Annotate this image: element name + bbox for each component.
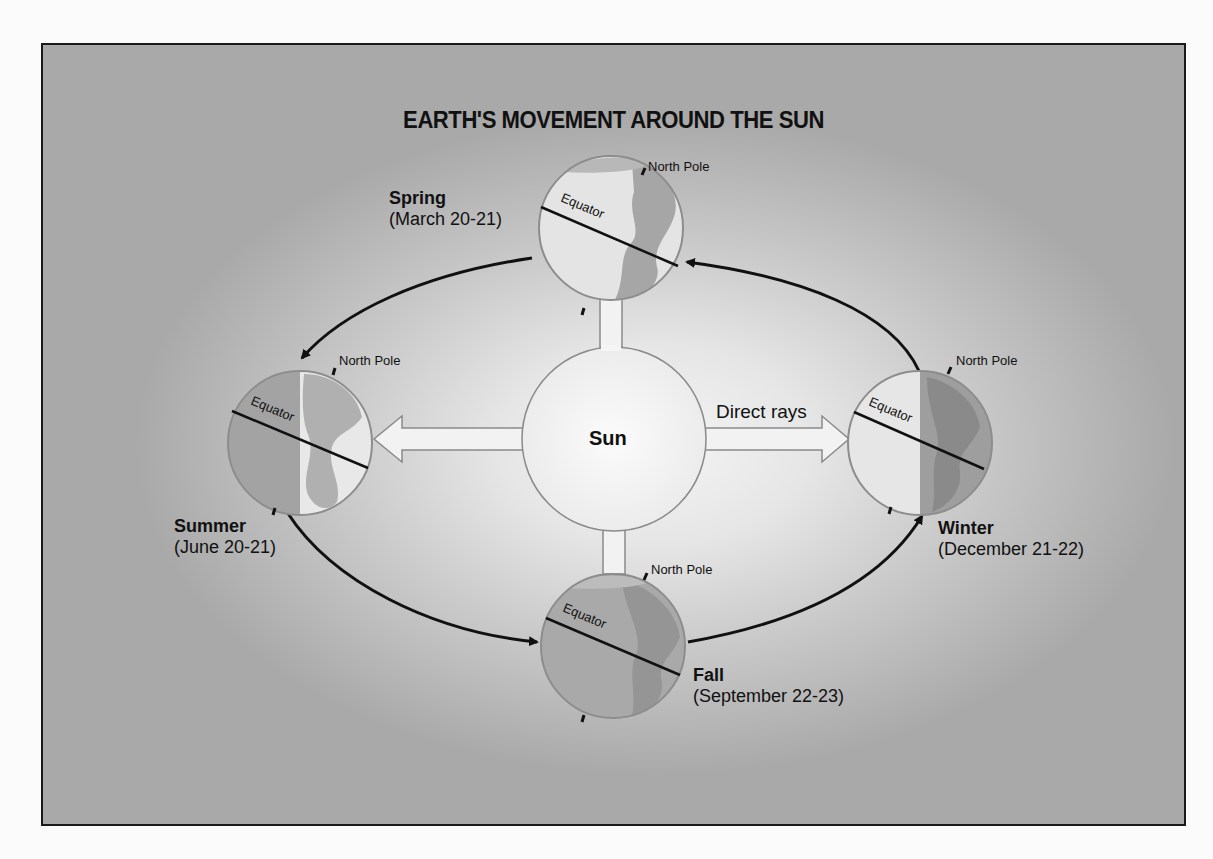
season-name: Summer: [174, 516, 276, 537]
north-pole-marker: [948, 367, 951, 374]
earth-globe-spring: Equator: [539, 156, 683, 315]
season-name: Spring: [389, 188, 502, 209]
south-pole-marker: [889, 507, 891, 514]
season-label-spring: Spring (March 20-21): [389, 188, 502, 230]
sun-label: Sun: [589, 427, 627, 450]
season-date: (December 21-22): [938, 539, 1084, 560]
north-pole-label-winter: North Pole: [956, 353, 1017, 368]
season-date: (June 20-21): [174, 537, 276, 558]
season-name: Winter: [938, 518, 1084, 539]
season-name: Fall: [693, 665, 844, 686]
season-label-fall: Fall (September 22-23): [693, 665, 844, 707]
season-date: (September 22-23): [693, 686, 844, 707]
south-pole-marker: [582, 715, 584, 722]
north-pole-marker: [333, 368, 335, 375]
north-pole-label-fall: North Pole: [651, 562, 712, 577]
direct-rays-label: Direct rays: [716, 401, 807, 423]
earth-globe-winter: Equator: [848, 367, 1000, 521]
season-date: (March 20-21): [389, 209, 502, 230]
north-pole-label-spring: North Pole: [648, 159, 709, 174]
south-pole-marker: [582, 308, 584, 315]
diagram-title: EARTH'S MOVEMENT AROUND THE SUN: [89, 106, 1139, 134]
north-pole-label-summer: North Pole: [339, 353, 400, 368]
diagram-canvas: Equator Equator: [0, 0, 1213, 859]
south-pole-marker: [273, 508, 275, 515]
season-label-summer: Summer (June 20-21): [174, 516, 276, 558]
season-label-winter: Winter (December 21-22): [938, 518, 1084, 560]
earth-globe-summer: Equator: [228, 368, 380, 521]
north-pole-marker: [644, 573, 647, 580]
earth-globe-fall: Equator: [541, 573, 685, 722]
diagram-frame: Equator Equator: [41, 43, 1186, 826]
